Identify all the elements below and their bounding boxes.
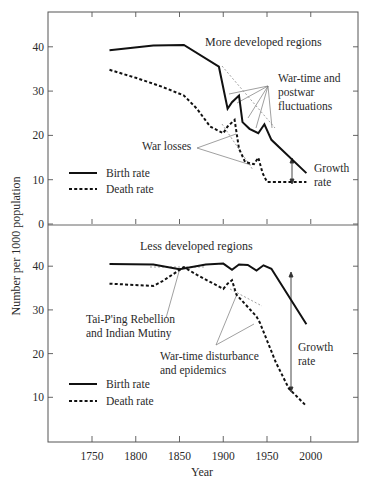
svg-text:40: 40 [33,260,45,272]
top-annotation-growth-rate: Growth rate [314,162,349,188]
svg-text:0: 0 [38,218,44,230]
svg-text:rate: rate [298,355,315,367]
growth-rate-arrows [289,158,294,392]
svg-text:Tai-P'ing Rebellion: Tai-P'ing Rebellion [86,313,175,326]
bottom-panel-title: Less developed regions [140,239,253,253]
svg-text:rate: rate [314,176,331,188]
x-axis-label: Year [191,465,213,479]
top-panel-title: More developed regions [205,35,322,49]
birth-death-rate-chart: 1750180018501900195020000102030401020304… [0,0,372,486]
svg-text:War-time disturbance: War-time disturbance [160,350,259,362]
svg-text:1750: 1750 [81,450,104,462]
top-death-rate-line [110,70,307,182]
bottom-annotation-wartime: War-time disturbance and epidemics [160,350,259,377]
legend-death-label: Death rate [106,183,154,195]
svg-text:and Indian Mutiny: and Indian Mutiny [86,327,172,340]
svg-text:postwar: postwar [278,86,315,99]
svg-text:20: 20 [33,129,45,141]
top-birth-rate-line [110,45,307,173]
svg-text:War-time and: War-time and [278,72,341,84]
svg-text:20: 20 [33,348,45,360]
svg-text:fluctuations: fluctuations [278,100,333,112]
svg-text:10: 10 [33,174,45,186]
bottom-annotation-growth-rate: Growth rate [298,341,333,367]
legend-death-label: Death rate [106,395,154,407]
svg-text:Growth: Growth [298,341,333,353]
top-annotation-war-fluctuations: War-time and postwar fluctuations [278,72,341,112]
svg-text:30: 30 [33,85,45,97]
y-axis-label: Number per 1000 population [9,177,23,316]
svg-text:1850: 1850 [168,450,191,462]
svg-text:30: 30 [33,304,45,316]
svg-text:1950: 1950 [256,450,279,462]
svg-text:40: 40 [33,41,45,53]
top-legend: Birth rate Death rate [69,167,154,195]
svg-text:and epidemics: and epidemics [160,364,227,377]
legend-birth-label: Birth rate [106,378,150,390]
bottom-annotation-taiping: Tai-P'ing Rebellion and Indian Mutiny [86,313,175,340]
svg-text:1800: 1800 [124,450,147,462]
svg-text:1900: 1900 [212,450,235,462]
bottom-legend: Birth rate Death rate [69,378,154,407]
annotation-pointers [150,66,275,345]
svg-text:Growth: Growth [314,162,349,174]
svg-text:10: 10 [33,391,45,403]
legend-birth-label: Birth rate [106,167,150,179]
svg-text:2000: 2000 [299,450,322,462]
top-annotation-war-losses: War losses [142,140,192,152]
